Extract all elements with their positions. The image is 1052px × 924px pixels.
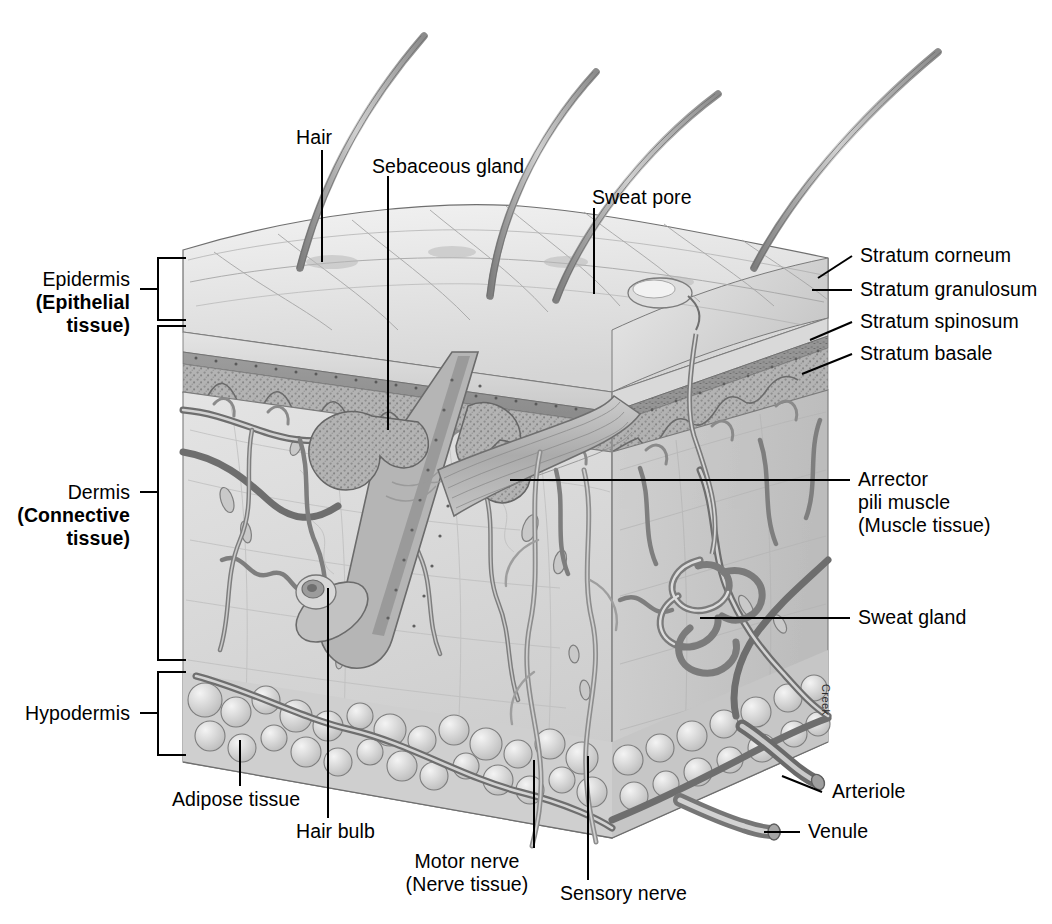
- label-stratum-basale: Stratum basale: [860, 342, 993, 365]
- label-motor-nerve-line1: Motor nerve: [386, 850, 548, 873]
- label-epidermis-tissue: (Epithelial tissue): [6, 291, 130, 337]
- label-dermis-line1: Dermis: [14, 481, 130, 504]
- label-stratum-corneum: Stratum corneum: [860, 244, 1011, 267]
- label-motor-nerve-line2: (Nerve tissue): [386, 873, 548, 896]
- label-stratum-spinosum: Stratum spinosum: [860, 310, 1019, 333]
- label-sensory-nerve: Sensory nerve: [560, 882, 687, 905]
- label-dermis-line2: (Connective: [4, 504, 130, 527]
- label-epidermis: Epidermis: [14, 268, 130, 291]
- venule-vessel: [680, 800, 780, 840]
- label-sweat-gland: Sweat gland: [858, 606, 966, 629]
- label-arrector-pili-muscle: Arrector pili muscle (Muscle tissue): [858, 468, 991, 537]
- label-hair: Hair: [296, 126, 332, 149]
- label-epidermis-line3: tissue): [6, 314, 130, 337]
- label-arrector-line2: pili muscle: [858, 491, 991, 514]
- label-sweat-pore: Sweat pore: [592, 186, 692, 209]
- label-sebaceous-gland: Sebaceous gland: [372, 155, 524, 178]
- label-stratum-granulosum: Stratum granulosum: [860, 278, 1037, 301]
- label-dermis-line3: tissue): [4, 527, 130, 550]
- label-venule: Venule: [808, 820, 868, 843]
- bracket-epidermis: [158, 258, 186, 320]
- label-adipose-tissue: Adipose tissue: [172, 788, 300, 811]
- label-epidermis-line2: (Epithelial: [6, 291, 130, 314]
- label-motor-nerve: Motor nerve (Nerve tissue): [386, 850, 548, 896]
- label-arrector-line3: (Muscle tissue): [858, 514, 991, 537]
- label-hair-bulb: Hair bulb: [296, 820, 375, 843]
- skin-anatomy-figure: Epidermis (Epithelial tissue) Dermis (Co…: [0, 0, 1052, 924]
- bracket-hypodermis: [158, 672, 186, 755]
- label-dermis: Dermis: [14, 481, 130, 504]
- label-dermis-tissue: (Connective tissue): [4, 504, 130, 550]
- artist-credit: Creek: [820, 684, 832, 715]
- label-hypodermis-line1: Hypodermis: [4, 702, 130, 725]
- label-arrector-line1: Arrector: [858, 468, 991, 491]
- bracket-dermis: [158, 326, 186, 660]
- label-hypodermis: Hypodermis: [4, 702, 130, 725]
- label-epidermis-line1: Epidermis: [14, 268, 130, 291]
- label-arteriole: Arteriole: [832, 780, 906, 803]
